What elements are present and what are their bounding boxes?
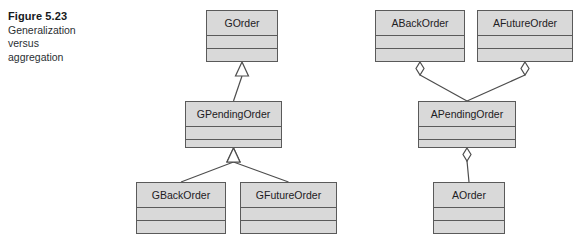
class-box-gpendingorder[interactable]: GPendingOrder: [185, 101, 282, 148]
class-operations-gfutureorder: [241, 221, 336, 233]
class-name-apendingorder: APendingOrder: [419, 102, 515, 127]
class-box-gbackorder[interactable]: GBackOrder: [136, 182, 226, 234]
aggregation-afutureorder-to-apendingorder-hollow-diamond-icon: [521, 62, 529, 75]
class-attributes-gorder: [207, 36, 277, 49]
class-operations-afutureorder: [478, 49, 572, 61]
class-operations-gpendingorder: [186, 140, 281, 147]
class-attributes-gpendingorder: [186, 127, 281, 140]
class-operations-gbackorder: [137, 221, 225, 233]
class-box-aorder[interactable]: AOrder: [433, 182, 505, 234]
class-attributes-afutureorder: [478, 36, 572, 49]
generalization-gfutureorder-to-gpendingorder-line: [234, 162, 289, 182]
class-box-abackorder[interactable]: ABackOrder: [375, 10, 465, 62]
class-attributes-apendingorder: [419, 127, 515, 140]
class-operations-apendingorder: [419, 140, 515, 147]
class-attributes-gfutureorder: [241, 208, 336, 221]
class-name-afutureorder: AFutureOrder: [478, 11, 572, 36]
aggregation-apendingorder-to-aorder-line: [467, 161, 469, 182]
generalization-gbackorder-to-gpendingorder-line: [181, 162, 234, 182]
class-name-aorder: AOrder: [434, 183, 504, 208]
class-name-gbackorder: GBackOrder: [137, 183, 225, 208]
figure-container: Figure 5.23 Generalization versus aggreg…: [0, 0, 587, 247]
generalization-gpendingorder-to-gorder-hollow-triangle-icon: [236, 62, 249, 76]
class-name-gorder: GOrder: [207, 11, 277, 36]
generalization-gpendingorder-to-gorder-line: [234, 76, 243, 101]
class-box-apendingorder[interactable]: APendingOrder: [418, 101, 516, 148]
class-name-gfutureorder: GFutureOrder: [241, 183, 336, 208]
generalization-gfutureorder-to-gpendingorder-hollow-triangle-icon: [227, 148, 240, 162]
class-name-abackorder: ABackOrder: [376, 11, 464, 36]
aggregation-abackorder-to-apendingorder-hollow-diamond-icon: [416, 62, 424, 75]
aggregation-apendingorder-to-aorder-hollow-diamond-icon: [463, 148, 471, 161]
class-box-gorder[interactable]: GOrder: [206, 10, 278, 62]
aggregation-abackorder-to-apendingorder-line: [420, 75, 467, 101]
class-box-gfutureorder[interactable]: GFutureOrder: [240, 182, 337, 234]
class-attributes-gbackorder: [137, 208, 225, 221]
class-operations-gorder: [207, 49, 277, 61]
class-operations-aorder: [434, 221, 504, 233]
class-operations-abackorder: [376, 49, 464, 61]
class-name-gpendingorder: GPendingOrder: [186, 102, 281, 127]
class-box-afutureorder[interactable]: AFutureOrder: [477, 10, 573, 62]
class-attributes-aorder: [434, 208, 504, 221]
class-attributes-abackorder: [376, 36, 464, 49]
aggregation-afutureorder-to-apendingorder-line: [467, 75, 525, 101]
